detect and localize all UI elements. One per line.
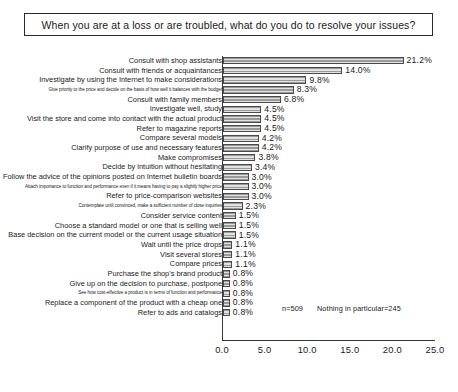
x-axis-tick-label: 25.0 xyxy=(425,344,444,355)
bar xyxy=(223,270,230,277)
x-axis-tick-label: 20.0 xyxy=(383,344,402,355)
bar-row: Consider service content1.5% xyxy=(0,211,458,221)
bar-row: Attach importance to function and perfor… xyxy=(0,182,458,192)
chart-title-box: When you are at a loss or are troubled, … xyxy=(24,13,433,36)
bar-with-value: 0.8% xyxy=(223,290,253,297)
bar-row: Purchase the shop's brand product0.8% xyxy=(0,269,458,279)
bar-with-value: 0.8% xyxy=(223,270,253,277)
bar-value-label: 6.8% xyxy=(284,95,304,104)
bar-category-label: Wait until the price drops xyxy=(0,241,222,249)
bar xyxy=(223,193,249,200)
bar-value-label: 0.8% xyxy=(233,279,253,288)
bar-value-label: 1.1% xyxy=(235,260,255,269)
bar-chart: Consult with shop assistants21.2%Consult… xyxy=(0,52,458,392)
bar xyxy=(223,251,232,258)
bar-with-value: 0.8% xyxy=(223,299,253,306)
bar xyxy=(223,164,252,171)
bar xyxy=(223,222,236,229)
bar-category-label: Give up on the decision to purchase, pos… xyxy=(0,279,222,287)
bar-category-label: Visit several stores xyxy=(0,250,222,258)
bar-category-label: Investigate well, study xyxy=(0,105,222,113)
bar-with-value: 1.5% xyxy=(223,222,259,229)
bar-category-label: Attach importance to function and perfor… xyxy=(0,184,222,189)
bar-category-label: Refer to magazine reports xyxy=(0,124,222,132)
bar-row: Decide by intuition without hesitating3.… xyxy=(0,163,458,173)
bar-category-label: Base decision on the current model or th… xyxy=(0,231,222,239)
bar-with-value: 4.5% xyxy=(223,115,285,122)
chart-annotation: n=509Nothing in particular=245 xyxy=(282,304,401,313)
bar xyxy=(223,173,249,180)
bar-value-label: 1.5% xyxy=(239,231,259,240)
bar-with-value: 0.8% xyxy=(223,309,253,316)
bar-with-value: 8.3% xyxy=(223,86,317,93)
bar-value-label: 1.1% xyxy=(235,250,255,259)
bar-with-value: 3.4% xyxy=(223,164,275,171)
bar-with-value: 3.8% xyxy=(223,154,279,161)
bar-row: Consult with friends or acquaintances14.… xyxy=(0,66,458,76)
bar xyxy=(223,280,230,287)
bar-value-label: 21.2% xyxy=(407,56,432,65)
bar-value-label: 14.0% xyxy=(345,66,370,75)
bar xyxy=(223,241,232,248)
bar-with-value: 4.5% xyxy=(223,125,285,132)
bar xyxy=(223,96,281,103)
bar-with-value: 3.0% xyxy=(223,173,272,180)
bar-row: Investigate by using the Internet to mak… xyxy=(0,75,458,85)
bar-category-label: Contemplate until convinced, make a suff… xyxy=(0,204,222,209)
bar-value-label: 4.2% xyxy=(262,134,282,143)
bar-value-label: 4.5% xyxy=(264,114,284,123)
bar-category-label: Consult with friends or acquaintances xyxy=(0,66,222,74)
bar-value-label: 0.8% xyxy=(233,308,253,317)
bar xyxy=(223,67,342,74)
bar-row: Wait until the price drops1.1% xyxy=(0,240,458,250)
bar-category-label: Replace a component of the product with … xyxy=(0,299,222,307)
bar-value-label: 4.5% xyxy=(264,124,284,133)
bar-value-label: 4.5% xyxy=(264,105,284,114)
bar-with-value: 1.1% xyxy=(223,261,256,268)
bar-value-label: 1.5% xyxy=(239,221,259,230)
bar xyxy=(223,135,259,142)
bar-category-label: Investigate by using the Internet to mak… xyxy=(0,76,222,84)
bar-rows-container: Consult with shop assistants21.2%Consult… xyxy=(0,56,458,318)
bar-row: Compare prices1.1% xyxy=(0,259,458,269)
bar-category-label: Consult with family members xyxy=(0,95,222,103)
bar-value-label: 0.8% xyxy=(233,289,253,298)
bar-value-label: 8.3% xyxy=(297,85,317,94)
bar-with-value: 1.5% xyxy=(223,212,259,219)
bar-with-value: 2.3% xyxy=(223,202,266,209)
bar-value-label: 9.8% xyxy=(309,76,329,85)
bar-row: Investigate well, study4.5% xyxy=(0,104,458,114)
bar-row: Choose a standard model or one that is s… xyxy=(0,221,458,231)
bar-with-value: 4.5% xyxy=(223,106,285,113)
bar-row: Consult with shop assistants21.2% xyxy=(0,56,458,66)
bar xyxy=(223,106,261,113)
bar-with-value: 1.5% xyxy=(223,231,259,238)
bar-value-label: 0.8% xyxy=(233,269,253,278)
bar-value-label: 3.0% xyxy=(252,182,272,191)
bar-with-value: 21.2% xyxy=(223,57,432,64)
x-axis-tick-label: 10.0 xyxy=(298,344,317,355)
bar-category-label: Consult with shop assistants xyxy=(0,57,222,65)
x-axis-tick-label: 0.0 xyxy=(215,344,229,355)
bar-category-label: Compare prices xyxy=(0,260,222,268)
bar-value-label: 3.4% xyxy=(255,163,275,172)
bar-value-label: 1.1% xyxy=(235,240,255,249)
bar-row: Give up on the decision to purchase, pos… xyxy=(0,279,458,289)
bar-row: Compare several models4.2% xyxy=(0,134,458,144)
x-axis-tick-label: 5.0 xyxy=(258,344,272,355)
bar xyxy=(223,76,306,83)
bar xyxy=(223,309,230,316)
bar-row: See how cost-effective a product is in t… xyxy=(0,289,458,299)
bar-with-value: 3.0% xyxy=(223,183,272,190)
bar xyxy=(223,290,230,297)
bar-value-label: 0.8% xyxy=(233,298,253,307)
bar-value-label: 4.2% xyxy=(262,143,282,152)
bar xyxy=(223,202,243,209)
bar-with-value: 1.1% xyxy=(223,251,256,258)
page-title: When you are at a loss or are troubled, … xyxy=(42,19,416,31)
bar-value-label: 2.3% xyxy=(246,202,266,211)
nothing-in-particular-label: Nothing in particular=245 xyxy=(317,304,401,313)
bar-category-label: Clarify purpose of use and necessary fea… xyxy=(0,144,222,152)
bar-category-label: Give priority to the price and decide on… xyxy=(0,87,222,92)
x-axis: 0.05.010.015.020.025.0 xyxy=(222,344,435,360)
